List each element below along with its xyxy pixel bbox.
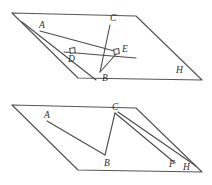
label-a-lower: A <box>43 110 50 120</box>
segment-c-to-b <box>100 25 110 72</box>
label-c-lower: C <box>112 102 119 112</box>
label-b-upper: B <box>102 73 108 83</box>
label-a-upper: A <box>38 20 45 30</box>
segment-line-through-d <box>22 22 96 80</box>
segment-c-to-h-lower <box>118 112 196 166</box>
segment-c-to-f-lower <box>115 113 175 163</box>
geometry-canvas: A C D E B H A C B F H <box>0 0 212 185</box>
upper-plane-diagram: A C D E B H <box>12 13 202 83</box>
right-angle-marker-d <box>70 48 76 54</box>
label-f-lower: F <box>168 159 175 169</box>
label-c-upper: C <box>110 13 117 23</box>
right-angle-marker-e <box>114 49 120 55</box>
label-d-upper: D <box>67 54 75 64</box>
segment-a-to-b-lower <box>47 121 105 155</box>
label-e-upper: E <box>121 44 128 54</box>
label-h-lower: H <box>182 162 191 172</box>
segment-b-to-c-lower <box>105 113 115 155</box>
geometry-figure-root: A C D E B H A C B F H <box>0 0 212 185</box>
lower-plane-diagram: A C B F H <box>12 102 202 172</box>
label-h-upper: H <box>175 65 184 75</box>
label-b-lower: B <box>104 158 110 168</box>
